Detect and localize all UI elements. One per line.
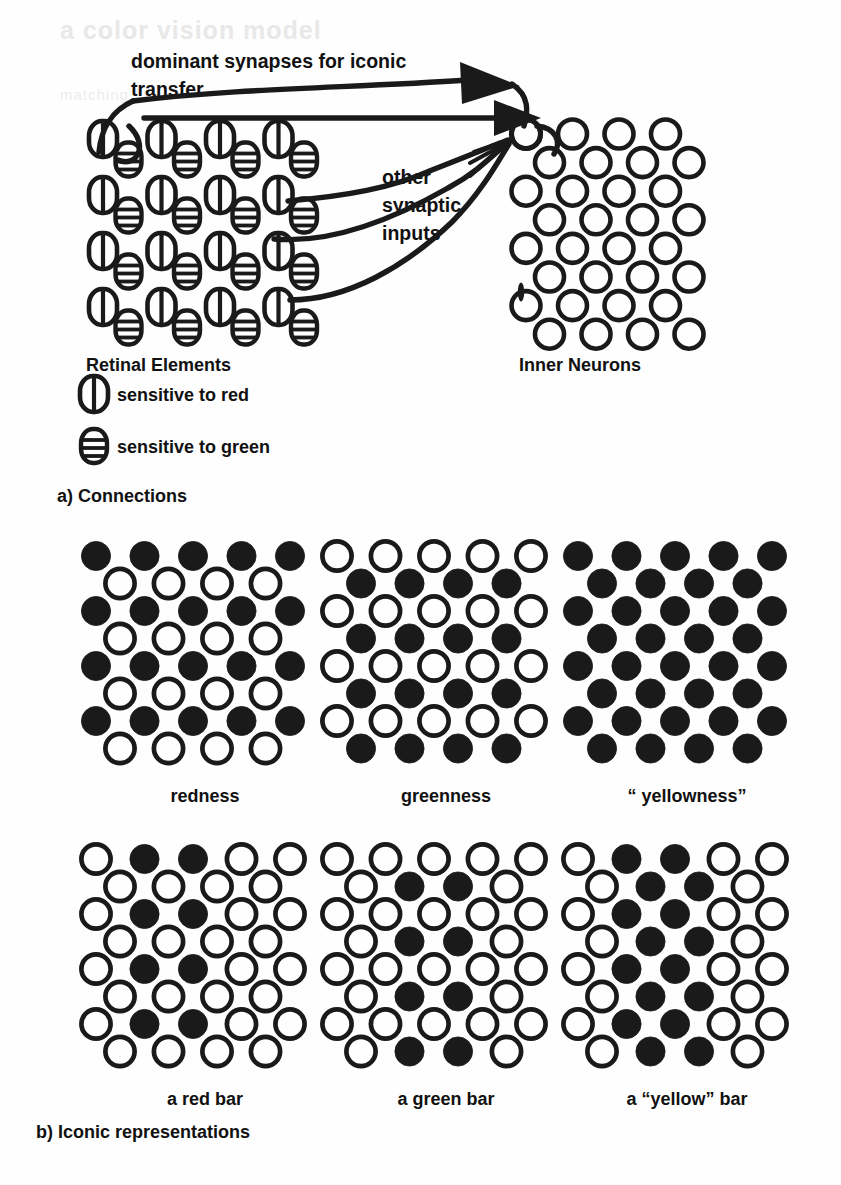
open-red-dot xyxy=(227,954,256,983)
retinal-red-element xyxy=(265,289,293,325)
filled-green-dot xyxy=(636,679,665,708)
filled-red-dot xyxy=(227,541,256,570)
retinal-red-element xyxy=(148,121,176,157)
open-green-dot xyxy=(105,734,134,763)
filled-green-dot xyxy=(684,569,713,598)
filled-green-dot xyxy=(636,569,665,598)
filled-green-dot xyxy=(346,569,375,598)
iconic-grid-red-bar xyxy=(81,844,304,1066)
open-red-dot xyxy=(227,1009,256,1038)
iconic-grid-redness xyxy=(81,541,304,763)
retinal-green-element xyxy=(233,143,259,177)
legend-glyph-sensitive-to-green xyxy=(81,429,107,463)
open-red-dot xyxy=(419,1009,448,1038)
filled-red-dot xyxy=(660,596,689,625)
dominant-synapse-arrowhead-lower xyxy=(494,100,541,136)
open-red-dot xyxy=(468,706,497,735)
open-green-dot xyxy=(105,872,134,901)
open-green-dot xyxy=(346,927,375,956)
filled-red-dot xyxy=(178,844,207,873)
inner-neuron xyxy=(582,148,611,177)
filled-red-dot xyxy=(130,541,159,570)
filled-green-dot xyxy=(346,679,375,708)
filled-green-dot xyxy=(395,927,424,956)
open-red-dot xyxy=(709,899,738,928)
inner-neuron xyxy=(512,291,541,320)
filled-red-dot xyxy=(660,1009,689,1038)
open-green-dot xyxy=(202,569,231,598)
open-green-dot xyxy=(154,927,183,956)
open-green-dot xyxy=(105,1037,134,1066)
filled-red-dot xyxy=(563,541,592,570)
open-red-dot xyxy=(563,899,592,928)
inner-neuron xyxy=(675,205,704,234)
filled-red-dot xyxy=(227,651,256,680)
open-red-dot xyxy=(371,1009,400,1038)
open-green-dot xyxy=(202,679,231,708)
filled-green-dot xyxy=(395,679,424,708)
retinal-green-element xyxy=(116,311,142,345)
open-red-dot xyxy=(516,596,545,625)
filled-red-dot xyxy=(275,651,304,680)
inner-neuron xyxy=(628,205,657,234)
filled-green-dot xyxy=(684,982,713,1011)
open-green-dot xyxy=(202,872,231,901)
open-green-dot xyxy=(154,624,183,653)
filled-red-dot xyxy=(612,899,641,928)
open-red-dot xyxy=(322,1009,351,1038)
open-green-dot xyxy=(251,1037,280,1066)
filled-green-dot xyxy=(395,624,424,653)
open-red-dot xyxy=(322,844,351,873)
open-green-dot xyxy=(202,1037,231,1066)
open-red-dot xyxy=(371,541,400,570)
inner-neuron xyxy=(535,205,564,234)
inner-neuron xyxy=(558,291,587,320)
open-green-dot xyxy=(202,734,231,763)
filled-red-dot xyxy=(612,541,641,570)
filled-red-dot xyxy=(660,651,689,680)
open-red-dot xyxy=(322,541,351,570)
filled-red-dot xyxy=(81,651,110,680)
filled-green-dot xyxy=(395,569,424,598)
filled-green-dot xyxy=(346,624,375,653)
filled-green-dot xyxy=(684,679,713,708)
retinal-green-element xyxy=(291,255,317,289)
filled-green-dot xyxy=(395,734,424,763)
filled-green-dot xyxy=(684,624,713,653)
inner-neuron xyxy=(651,120,680,149)
filled-green-dot xyxy=(733,679,762,708)
open-red-dot xyxy=(468,651,497,680)
open-green-dot xyxy=(154,1037,183,1066)
open-green-dot xyxy=(154,872,183,901)
filled-green-dot xyxy=(636,734,665,763)
filled-green-dot xyxy=(395,1037,424,1066)
filled-red-dot xyxy=(178,954,207,983)
filled-green-dot xyxy=(684,927,713,956)
filled-green-dot xyxy=(733,734,762,763)
open-red-dot xyxy=(371,899,400,928)
open-green-dot xyxy=(346,1037,375,1066)
open-red-dot xyxy=(468,844,497,873)
filled-red-dot xyxy=(612,954,641,983)
open-green-dot xyxy=(492,872,521,901)
open-red-dot xyxy=(468,596,497,625)
open-red-dot xyxy=(516,899,545,928)
open-red-dot xyxy=(516,954,545,983)
open-green-dot xyxy=(105,927,134,956)
filled-green-dot xyxy=(395,872,424,901)
retinal-green-element xyxy=(116,199,142,233)
open-red-dot xyxy=(371,706,400,735)
filled-red-dot xyxy=(660,706,689,735)
open-red-dot xyxy=(516,1009,545,1038)
inner-neuron xyxy=(535,320,564,349)
filled-red-dot xyxy=(275,541,304,570)
open-red-dot xyxy=(81,899,110,928)
inner-neuron xyxy=(651,234,680,263)
open-red-dot xyxy=(516,844,545,873)
filled-red-dot xyxy=(660,844,689,873)
filled-red-dot xyxy=(81,596,110,625)
open-green-dot xyxy=(105,982,134,1011)
open-red-dot xyxy=(516,541,545,570)
open-red-dot xyxy=(371,954,400,983)
open-green-dot xyxy=(346,982,375,1011)
